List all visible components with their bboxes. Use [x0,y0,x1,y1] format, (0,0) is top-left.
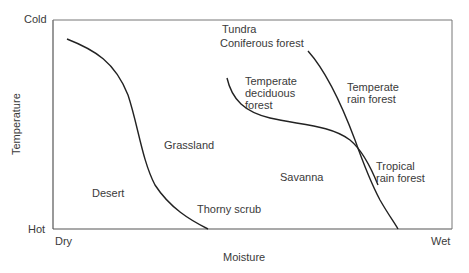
y-axis-bottom-label: Hot [28,223,45,235]
y-axis-title: Temperature [10,93,22,155]
desert-grassland-boundary [67,39,208,229]
region-tropical-rain-forest: Tropical rain forest [376,160,425,184]
region-temperate-rain-forest: Temperate rain forest [347,81,399,105]
x-axis-title: Moisture [223,251,265,263]
region-thorny-scrub: Thorny scrub [197,203,261,215]
region-grassland: Grassland [164,139,214,151]
y-axis-top-label: Cold [24,13,47,25]
x-axis-left-label: Dry [55,235,72,247]
region-coniferous-forest: Coniferous forest [220,37,304,49]
region-savanna: Savanna [280,171,323,183]
region-temperate-deciduous-forest: Temperate deciduous forest [245,75,297,111]
region-desert: Desert [92,187,124,199]
region-tundra: Tundra [222,23,256,35]
x-axis-right-label: Wet [431,235,450,247]
rainforest-boundary [308,51,398,229]
